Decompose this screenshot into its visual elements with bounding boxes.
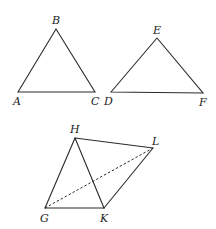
triangle-def: D E F (103, 24, 207, 109)
vertex-label-l: L (151, 135, 159, 148)
geometry-diagram: A B C D E F G H L K (0, 0, 216, 229)
edge-gh (45, 138, 75, 208)
triangle-abc: A B C (12, 14, 100, 108)
vertex-label-k: K (99, 212, 109, 225)
vertex-label-g: G (40, 212, 49, 225)
vertex-label-f: F (198, 96, 207, 109)
edge-lk (104, 148, 153, 208)
vertex-label-c: C (91, 95, 100, 108)
vertex-label-e: E (152, 24, 161, 37)
vertex-label-d: D (103, 95, 113, 108)
triangle-def-outline (111, 38, 203, 93)
triangle-abc-outline (18, 29, 95, 92)
diagonal-gl-dashed (45, 148, 153, 208)
vertex-label-h: H (69, 123, 80, 136)
vertex-label-b: B (51, 14, 60, 27)
diagonal-hk (75, 138, 104, 208)
vertex-label-a: A (12, 95, 21, 108)
edge-hl (75, 138, 153, 148)
quadrilateral-ghlk: G H L K (40, 123, 159, 225)
